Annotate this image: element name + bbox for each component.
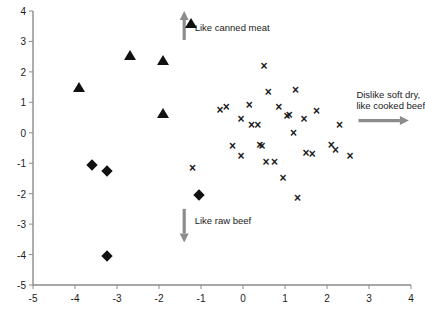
- data-point-cross: ×: [254, 119, 261, 131]
- data-point-cross: ×: [286, 109, 293, 121]
- data-point-cross: ×: [271, 156, 278, 168]
- x-tick-label: 3: [366, 293, 372, 304]
- data-point-cross: ×: [260, 60, 267, 72]
- y-tick-label: 2: [8, 66, 26, 77]
- annotation-label-like-raw-beef: Like raw beef: [195, 215, 252, 226]
- arrow-head-like-raw-beef: [180, 233, 189, 242]
- data-point-triangle: [73, 82, 85, 92]
- y-tick-label: -4: [8, 249, 26, 260]
- data-point-cross: ×: [332, 144, 339, 156]
- arrow-head-dislike-soft-dry-like-cooked-beef: [400, 116, 409, 125]
- y-tick-label: 1: [8, 97, 26, 108]
- x-tick-label: -1: [197, 293, 206, 304]
- data-point-cross: ×: [294, 192, 301, 204]
- data-point-cross: ×: [309, 148, 316, 160]
- x-tick-label: 2: [324, 293, 330, 304]
- data-point-cross: ×: [237, 150, 244, 162]
- x-tick-label: -5: [29, 293, 38, 304]
- data-point-cross: ×: [246, 99, 253, 111]
- x-tick-label: -3: [113, 293, 122, 304]
- data-point-triangle: [157, 108, 169, 118]
- data-point-cross: ×: [237, 113, 244, 125]
- x-tick-label: -2: [155, 293, 164, 304]
- data-point-cross: ×: [263, 156, 270, 168]
- x-tick-label: 1: [282, 293, 288, 304]
- data-point-cross: ×: [275, 101, 282, 113]
- data-point-cross: ×: [258, 140, 265, 152]
- y-tick-label: 0: [8, 127, 26, 138]
- data-point-cross: ×: [290, 127, 297, 139]
- x-tick-label: 4: [408, 293, 414, 304]
- annotation-label-like-canned-meat: Like canned meat: [195, 22, 270, 33]
- x-tick-label: 0: [240, 293, 246, 304]
- y-tick-label: 3: [8, 36, 26, 47]
- axes: [29, 11, 411, 289]
- data-point-cross: ×: [265, 86, 272, 98]
- y-tick-label: -5: [8, 280, 26, 291]
- y-tick-label: -2: [8, 188, 26, 199]
- annotation-line-1: Dislike soft dry,: [356, 89, 425, 100]
- y-tick-label: 4: [8, 6, 26, 17]
- data-point-cross: ×: [300, 113, 307, 125]
- annotation-label-dislike-soft-dry-like-cooked-beef: Dislike soft dry,like cooked beef: [356, 89, 425, 111]
- data-point-cross: ×: [223, 101, 230, 113]
- x-tick-label: -4: [71, 293, 80, 304]
- data-point-cross: ×: [189, 162, 196, 174]
- data-point-cross: ×: [292, 84, 299, 96]
- annotation-line-2: like cooked beef: [356, 100, 425, 111]
- y-tick-label: -3: [8, 219, 26, 230]
- data-point-cross: ×: [347, 150, 354, 162]
- data-point-triangle: [124, 50, 136, 60]
- data-point-cross: ×: [279, 172, 286, 184]
- data-point-cross: ×: [336, 119, 343, 131]
- data-point-triangle: [157, 55, 169, 65]
- data-point-cross: ×: [313, 105, 320, 117]
- data-point-cross: ×: [229, 140, 236, 152]
- y-tick-label: -1: [8, 158, 26, 169]
